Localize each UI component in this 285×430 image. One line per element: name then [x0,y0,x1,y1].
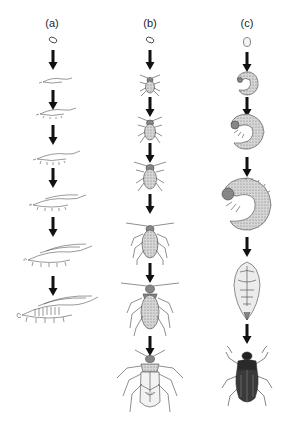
arrow-icon [243,52,252,72]
arrow-icon [146,194,155,214]
nymph-4-icon [126,223,174,265]
arrow-icon [243,157,252,177]
adult-bug-icon [117,350,183,412]
nymph-2-icon [138,117,162,143]
arrow-icon [49,50,58,70]
arrow-icon [49,90,58,110]
arrow-icon [146,143,155,163]
arrow-icon [243,324,252,344]
juvenile-2-icon [36,108,76,119]
arrow-icon [49,276,58,296]
egg-icon [48,36,57,44]
nymph-3-icon [134,162,166,191]
arrow-icon [49,217,58,237]
adult-beetle-icon [222,346,272,406]
larva-1-icon [237,72,258,95]
column-b [117,36,183,412]
juvenile-5-icon [24,244,92,267]
juvenile-3-icon [33,151,80,165]
arrow-icon [243,237,252,257]
arrow-icon [49,168,58,188]
arrow-icon [146,263,155,283]
egg-icon [145,36,154,44]
arrow-icon [146,97,155,117]
adult-silverfish-icon [17,296,98,323]
column-c [222,38,272,407]
pupa-icon [234,262,260,320]
arrow-icon [146,336,155,356]
juvenile-1-icon [39,78,72,83]
nymph-1-icon [140,75,160,96]
egg-icon [244,38,251,47]
arrow-icon [146,50,155,70]
arrow-icon [49,125,58,145]
column-a [17,36,98,323]
nymph-5-icon [121,283,179,336]
metamorphosis-diagram [0,0,285,430]
larva-3-icon [222,178,271,230]
larva-2-icon [231,114,264,149]
juvenile-4-icon [30,195,86,211]
